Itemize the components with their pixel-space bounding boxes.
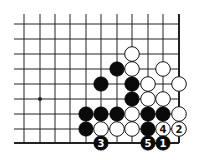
black-stone-move-3: 3 (94, 136, 109, 151)
white-stone (172, 107, 187, 122)
go-board-diagram: 42351 (0, 0, 198, 160)
black-stone (141, 122, 156, 137)
white-stone-icon (94, 122, 109, 137)
white-stone-icon (172, 107, 187, 122)
white-stone (172, 77, 187, 92)
white-stone-icon (172, 77, 187, 92)
black-stone-icon (94, 107, 109, 122)
white-stone-icon (156, 62, 171, 77)
white-stone (125, 122, 140, 137)
black-stone-icon (156, 107, 171, 122)
black-stone (125, 77, 140, 92)
black-stone-icon (94, 77, 109, 92)
white-stone (110, 122, 125, 137)
black-stone (110, 62, 125, 77)
black-stone-icon (125, 92, 140, 107)
white-stone-move-4: 4 (156, 122, 171, 137)
white-stone-move-2: 2 (172, 122, 187, 137)
white-stone (94, 122, 109, 137)
white-stone (125, 107, 140, 122)
white-stone-icon (156, 92, 171, 107)
white-stone-icon (125, 47, 140, 62)
white-stone (156, 62, 171, 77)
black-stone-icon (141, 122, 156, 137)
white-stone-icon (110, 122, 125, 137)
white-stone-icon (141, 77, 156, 92)
star-points (38, 97, 42, 101)
black-stone (94, 77, 109, 92)
black-stone-icon (141, 107, 156, 122)
white-stone-icon (125, 107, 140, 122)
black-stone (94, 107, 109, 122)
move-number-label: 3 (98, 138, 105, 149)
white-stone-icon (125, 62, 140, 77)
white-stone (125, 47, 140, 62)
black-stone (125, 92, 140, 107)
black-stone (79, 122, 94, 137)
move-number-label: 2 (176, 124, 183, 135)
star-point-icon (38, 97, 42, 101)
white-stone-icon (141, 92, 156, 107)
black-stone-icon (110, 62, 125, 77)
black-stone-icon (79, 107, 94, 122)
black-stone-icon (79, 122, 94, 137)
black-stone-icon (125, 77, 140, 92)
white-stone (141, 92, 156, 107)
black-stone (156, 107, 171, 122)
move-number-label: 1 (160, 138, 167, 149)
black-stone (110, 107, 125, 122)
white-stone-icon (125, 122, 140, 137)
white-stone (141, 77, 156, 92)
white-stone (156, 92, 171, 107)
white-stone (125, 62, 140, 77)
move-number-label: 5 (145, 138, 152, 149)
black-stone-move-5: 5 (141, 136, 156, 151)
move-number-label: 4 (160, 124, 167, 135)
black-stone (141, 107, 156, 122)
black-stone-icon (110, 107, 125, 122)
black-stone-move-1: 1 (156, 136, 171, 151)
black-stone (79, 107, 94, 122)
